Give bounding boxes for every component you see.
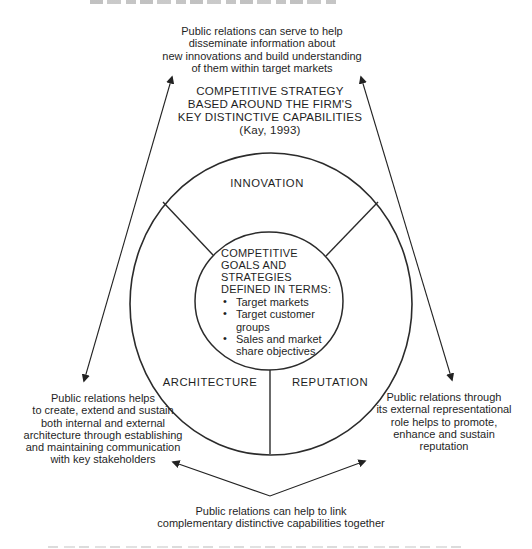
diagram-title: COMPETITIVE STRATEGY BASED AROUND THE FI…	[178, 84, 362, 136]
note-linking: Public relations can help to link comple…	[157, 505, 384, 530]
segment-label-architecture: ARCHITECTURE	[163, 376, 258, 388]
center-goal-item: Target markets	[221, 296, 347, 308]
center-goals-list: Target markets Target customer groups Sa…	[221, 296, 347, 356]
center-goals-block: COMPETITIVE GOALS AND STRATEGIES DEFINED…	[221, 247, 347, 357]
center-goal-item: Target customer groups	[221, 308, 347, 332]
arrow-bottom-link	[173, 461, 365, 496]
arrow-top-right	[361, 77, 452, 380]
note-innovation: Public relations can serve to help disse…	[162, 25, 361, 74]
center-goal-item: Sales and market share objectives	[221, 333, 347, 357]
note-architecture: Public relations helps to create, extend…	[24, 392, 183, 466]
segment-label-innovation: INNOVATION	[230, 177, 304, 189]
note-reputation: Public relations through its external re…	[376, 391, 511, 452]
segment-label-reputation: REPUTATION	[292, 376, 368, 388]
divider-innovation-architecture	[163, 202, 213, 255]
arrow-top-left	[84, 77, 172, 381]
center-goals-heading: COMPETITIVE GOALS AND STRATEGIES DEFINED…	[221, 247, 347, 295]
